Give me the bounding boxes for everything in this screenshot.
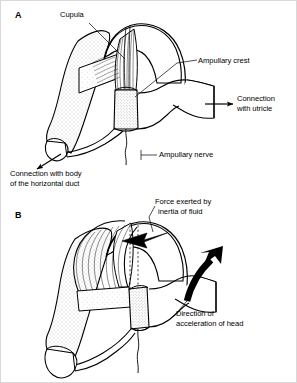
figure-drawing bbox=[1, 1, 297, 383]
panel-a-drawing bbox=[37, 23, 233, 169]
label-direction-accel-line2: acceleration of head bbox=[176, 319, 243, 328]
label-connection-utricle-line2: with utricle bbox=[237, 104, 272, 113]
label-force-inertia-line1: Force exerted by bbox=[155, 197, 211, 206]
label-force-inertia-line2: inertia of fluid bbox=[158, 207, 202, 216]
cupula-deflected-b bbox=[113, 223, 133, 287]
utricle-connection-tube-a bbox=[173, 80, 214, 118]
ampulla-cut-face-b bbox=[77, 287, 131, 311]
anatomy-figure: A Cupula Ampullary crest Connection with… bbox=[0, 0, 297, 383]
label-ampullary-crest: Ampullary crest bbox=[198, 56, 250, 65]
label-ampullary-nerve: Ampullary nerve bbox=[159, 150, 213, 159]
label-connection-body-line1: Connection with body bbox=[10, 169, 82, 178]
panel-b-letter: B bbox=[15, 210, 22, 220]
label-direction-accel-line1: Direction of bbox=[176, 309, 214, 318]
duct-cut-end-b bbox=[45, 349, 77, 378]
label-cupula: Cupula bbox=[60, 10, 84, 19]
ampullary-crest-a bbox=[114, 90, 138, 129]
panel-b-drawing bbox=[45, 206, 223, 378]
ampulla-body-a bbox=[47, 31, 110, 153]
ampullary-nerve-b bbox=[137, 329, 138, 373]
ampullary-crest-b bbox=[129, 287, 149, 329]
ampullary-nerve-a bbox=[125, 129, 126, 165]
ampulla-lower-right-a bbox=[138, 106, 179, 129]
label-connection-body-line2: of the horizontal duct bbox=[10, 179, 79, 188]
panel-a-letter: A bbox=[15, 10, 22, 20]
label-connection-utricle-line1: Connection bbox=[237, 94, 275, 103]
